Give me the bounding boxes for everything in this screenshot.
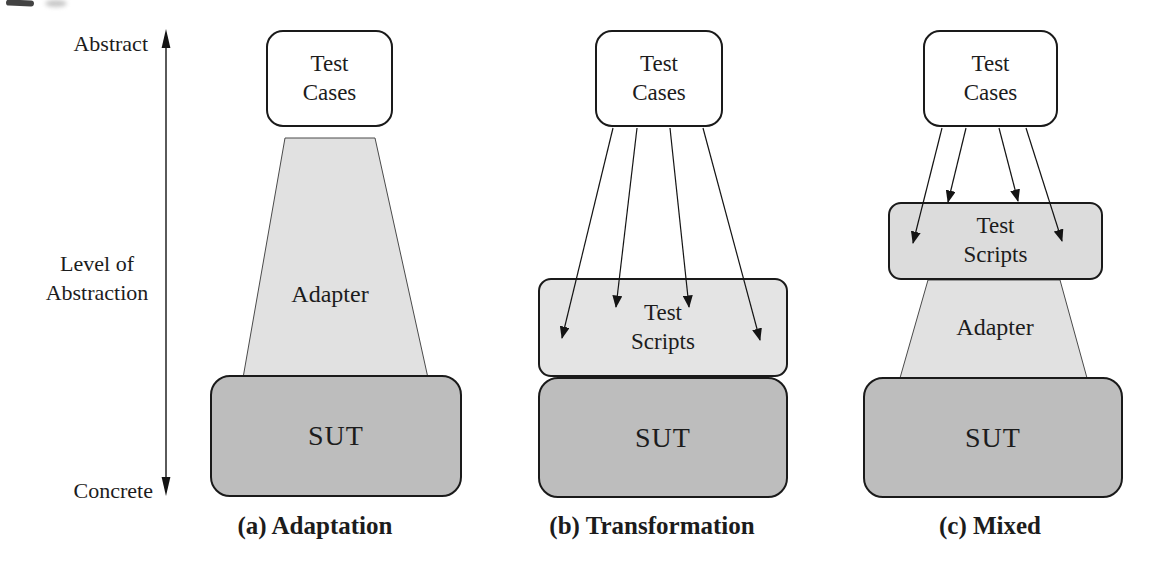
test-cases-box-a: Test Cases <box>266 30 393 127</box>
test-cases-box-c: Test Cases <box>923 30 1058 127</box>
test-scripts-box-c: Test Scripts <box>888 202 1103 280</box>
sut-label-b: SUT <box>635 422 691 454</box>
test-scripts-label-c: Test Scripts <box>964 212 1028 270</box>
figure-canvas: Test Cases SUT Test Cases Test Scripts S… <box>0 0 1159 570</box>
sut-box-b: SUT <box>538 377 788 498</box>
caption-transformation: (b) Transformation <box>502 512 802 540</box>
scan-artifact <box>45 0 67 7</box>
test-scripts-box-b: Test Scripts <box>538 278 788 377</box>
test-scripts-label-b: Test Scripts <box>631 299 695 357</box>
scan-artifact <box>6 0 34 6</box>
adapter-trapezoid-a <box>243 138 428 378</box>
test-cases-box-b: Test Cases <box>595 30 723 127</box>
axis-concrete-label: Concrete <box>53 476 153 505</box>
sut-box-c: SUT <box>863 377 1123 498</box>
sut-label-c: SUT <box>965 422 1021 454</box>
caption-adaptation: (a) Adaptation <box>165 512 465 540</box>
sut-box-a: SUT <box>210 375 462 497</box>
axis-level-of-abstraction-label: Level of Abstraction <box>27 249 167 307</box>
sut-label-a: SUT <box>308 420 364 452</box>
test-cases-label-a: Test Cases <box>303 50 357 108</box>
test-cases-label-b: Test Cases <box>632 50 686 108</box>
axis-abstract-label: Abstract <box>48 29 148 58</box>
adapter-label-c: Adapter <box>933 314 1057 341</box>
adapter-label-a: Adapter <box>268 281 392 308</box>
test-cases-label-c: Test Cases <box>964 50 1018 108</box>
caption-mixed: (c) Mixed <box>840 512 1140 540</box>
